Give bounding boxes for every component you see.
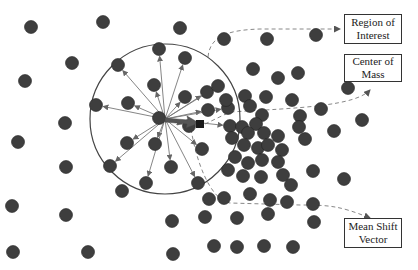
- data-point: [196, 143, 209, 156]
- data-point: [307, 165, 320, 178]
- data-point: [261, 33, 274, 46]
- data-point: [174, 22, 187, 35]
- data-point: [242, 157, 255, 170]
- data-point: [338, 173, 351, 186]
- data-points: [6, 16, 369, 261]
- center-of-mass-marker: [196, 120, 204, 128]
- data-point: [7, 246, 20, 259]
- data-point: [308, 216, 321, 229]
- label-line: Mass: [345, 68, 401, 81]
- data-point: [66, 57, 79, 70]
- data-point: [260, 91, 273, 104]
- data-point: [272, 72, 285, 85]
- data-point: [97, 16, 110, 29]
- data-point: [276, 144, 289, 157]
- label-line: Mean Shift: [345, 220, 401, 233]
- data-point: [287, 241, 300, 254]
- data-point: [281, 196, 294, 209]
- label-line: Region of: [345, 16, 401, 29]
- data-point: [6, 200, 19, 213]
- data-point: [256, 154, 269, 167]
- data-point: [286, 94, 299, 107]
- data-point: [165, 161, 178, 174]
- data-point: [121, 137, 134, 150]
- region-of-interest-label: Region of Interest: [344, 14, 402, 44]
- data-point: [166, 215, 179, 228]
- data-point: [192, 177, 205, 190]
- data-point: [242, 127, 255, 140]
- data-point: [202, 104, 215, 117]
- vector-arrow: [165, 119, 170, 160]
- data-point: [237, 170, 250, 183]
- data-point: [222, 164, 235, 177]
- data-point: [310, 29, 323, 42]
- data-point: [315, 103, 328, 116]
- data-point: [356, 114, 369, 127]
- mean-shift-vector-label: Mean Shift Vector: [344, 218, 402, 248]
- data-point: [342, 82, 355, 95]
- data-point: [220, 94, 233, 107]
- annotation-connectors: [190, 29, 370, 218]
- data-point: [148, 79, 161, 92]
- label-line: Vector: [345, 233, 401, 246]
- data-point: [19, 75, 32, 88]
- data-point: [179, 91, 192, 104]
- data-point: [293, 121, 306, 134]
- data-point: [238, 139, 251, 152]
- mean-shift-diagram: Region of Interest Center of Mass Mean S…: [0, 0, 418, 270]
- data-point: [122, 97, 135, 110]
- data-point: [226, 132, 239, 145]
- data-point: [272, 130, 285, 143]
- data-point: [258, 240, 271, 253]
- data-point: [272, 156, 285, 169]
- data-point: [60, 209, 73, 222]
- data-point: [112, 59, 125, 72]
- data-point: [25, 21, 38, 34]
- data-point: [104, 160, 117, 173]
- data-point: [116, 185, 129, 198]
- data-point: [212, 80, 225, 93]
- data-point: [244, 188, 257, 201]
- data-point: [258, 127, 271, 140]
- data-point: [59, 117, 72, 130]
- data-point: [203, 193, 216, 206]
- data-point: [255, 171, 268, 184]
- data-point: [90, 99, 103, 112]
- data-point: [199, 211, 212, 224]
- data-point: [140, 177, 153, 190]
- data-point: [153, 112, 166, 125]
- data-point: [218, 33, 231, 46]
- data-point: [224, 120, 237, 133]
- data-point: [149, 138, 162, 151]
- data-point: [285, 179, 298, 192]
- data-point: [231, 212, 244, 225]
- data-point: [208, 240, 221, 253]
- label-line: Interest: [345, 29, 401, 42]
- data-point: [244, 100, 257, 113]
- vector-arrow: [165, 65, 183, 119]
- label-line: Center of: [345, 55, 401, 68]
- data-point: [328, 125, 341, 138]
- data-point: [167, 248, 180, 261]
- data-point: [264, 194, 277, 207]
- data-point: [12, 136, 25, 149]
- data-point: [179, 52, 192, 65]
- data-point: [247, 63, 260, 76]
- data-point: [262, 208, 275, 221]
- data-point: [292, 67, 305, 80]
- data-point: [231, 241, 244, 254]
- center-of-mass-label: Center of Mass: [344, 54, 402, 82]
- data-point: [82, 246, 95, 259]
- data-point: [307, 198, 320, 211]
- data-point: [299, 133, 312, 146]
- data-point: [262, 139, 275, 152]
- data-point: [229, 151, 242, 164]
- data-point: [60, 161, 73, 174]
- data-point: [218, 192, 231, 205]
- data-point: [153, 43, 166, 56]
